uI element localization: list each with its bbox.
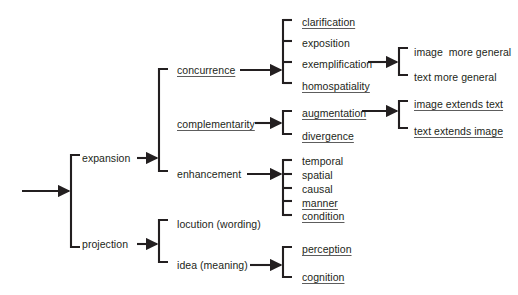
bracket-augmentation: [399, 101, 408, 128]
bracket-expansion: [159, 69, 168, 171]
taxonomy-diagram: expansion projection concurrence complem…: [0, 0, 518, 295]
node-homospatiality[interactable]: homospatiality: [302, 80, 370, 92]
node-causal[interactable]: causal: [302, 183, 333, 195]
node-text-extends-image[interactable]: text extends image: [414, 125, 503, 137]
node-perception[interactable]: perception: [302, 243, 352, 255]
node-image-more-general[interactable]: image more general: [414, 46, 511, 58]
node-enhancement[interactable]: enhancement: [177, 168, 241, 180]
node-projection[interactable]: projection: [82, 238, 128, 250]
node-idea-meaning[interactable]: idea (meaning): [177, 259, 248, 271]
node-condition[interactable]: condition: [302, 210, 344, 222]
diagram-connectors: [0, 0, 518, 295]
bracket-exemplification: [399, 48, 408, 75]
node-complementarity[interactable]: complementarity: [177, 118, 255, 130]
node-locution-wording[interactable]: locution (wording): [177, 218, 261, 230]
bracket-projection: [159, 220, 168, 262]
node-manner[interactable]: manner: [302, 197, 338, 209]
bracket-concurrence: [283, 20, 292, 83]
bracket-idea: [283, 247, 292, 277]
node-divergence[interactable]: divergence: [302, 130, 354, 142]
node-cognition[interactable]: cognition: [302, 271, 344, 283]
node-augmentation[interactable]: augmentation: [302, 107, 366, 119]
node-spatial[interactable]: spatial: [302, 169, 333, 181]
node-exposition[interactable]: exposition: [302, 37, 350, 49]
node-expansion[interactable]: expansion: [82, 152, 130, 164]
bracket-complementarity: [283, 111, 292, 134]
node-text-more-general[interactable]: text more general: [414, 71, 497, 83]
node-clarification[interactable]: clarification: [302, 16, 355, 28]
node-temporal[interactable]: temporal: [302, 155, 343, 167]
node-concurrence[interactable]: concurrence: [177, 64, 235, 76]
bracket-root: [71, 155, 80, 247]
node-image-extends-text[interactable]: image extends text: [414, 98, 503, 110]
node-exemplification[interactable]: exemplification: [302, 58, 372, 70]
